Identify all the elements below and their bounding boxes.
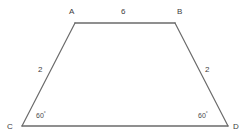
vertex-label-d: D <box>233 123 239 131</box>
angle-d-value: 60 <box>198 112 206 119</box>
geometry-figure: A B C D 6 2 2 60° 60° <box>0 0 250 140</box>
side-length-ac: 2 <box>38 66 42 74</box>
angle-c-degree: ° <box>44 110 46 116</box>
segment-ac <box>22 23 75 126</box>
side-length-bd: 2 <box>205 66 209 74</box>
vertex-label-b: B <box>177 8 182 16</box>
angle-d-degree: ° <box>206 110 208 116</box>
angle-label-d: 60° <box>198 112 208 119</box>
vertex-label-a: A <box>69 8 74 16</box>
angle-label-c: 60° <box>36 112 46 119</box>
vertex-label-c: C <box>7 123 13 131</box>
angle-c-value: 60 <box>36 112 44 119</box>
side-length-ab: 6 <box>121 8 125 16</box>
segment-bd <box>175 23 228 126</box>
